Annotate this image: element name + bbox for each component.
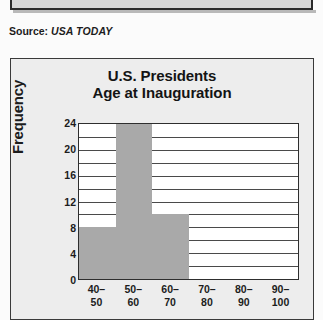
bar-cell xyxy=(225,124,262,279)
bar-cell xyxy=(116,124,153,279)
y-axis-tick-label: 12 xyxy=(64,197,76,207)
source-value: USA TODAY xyxy=(51,25,112,37)
y-axis-tick-label: 24 xyxy=(64,118,76,128)
bar-cell xyxy=(189,124,226,279)
y-axis-label: Frequency xyxy=(9,80,26,154)
bar-series xyxy=(79,124,298,279)
y-axis-tick-label: 16 xyxy=(64,170,76,180)
clipped-header-box-shadow xyxy=(13,10,316,13)
bar-cell xyxy=(152,124,189,279)
bar xyxy=(79,227,116,279)
plot-area xyxy=(78,123,299,280)
source-label: Source: xyxy=(9,25,48,37)
chart-title-line-2: Age at Inauguration xyxy=(11,84,313,101)
bar-cell xyxy=(262,124,299,279)
clipped-header-box-frame: Total Rebounds xyxy=(10,0,313,10)
x-axis-tick-label: 60–70 xyxy=(152,283,189,308)
chart-panel: U.S. Presidents Age at Inauguration Freq… xyxy=(10,58,314,320)
x-axis-tick-label: 40–50 xyxy=(78,283,115,308)
clipped-header-box: Total Rebounds xyxy=(10,0,313,10)
y-axis-ticks: 04812162024 xyxy=(47,123,76,280)
x-axis-ticks: 40–5050–6060–7070–8080–9090–100 xyxy=(78,283,299,308)
bar xyxy=(116,124,153,279)
x-axis-tick-label: 90–100 xyxy=(262,283,299,308)
chart-title: U.S. Presidents Age at Inauguration xyxy=(11,67,313,101)
y-axis-tick-label: 4 xyxy=(70,249,76,259)
chart-title-line-1: U.S. Presidents xyxy=(11,67,313,84)
y-axis-tick-label: 0 xyxy=(70,275,76,285)
x-axis-tick-label: 50–60 xyxy=(115,283,152,308)
x-axis-tick-label: 70–80 xyxy=(188,283,225,308)
bar xyxy=(152,214,189,279)
y-axis-tick-label: 20 xyxy=(64,144,76,154)
plot-frame xyxy=(78,123,299,280)
bar-cell xyxy=(79,124,116,279)
y-axis-tick-label: 8 xyxy=(70,223,76,233)
source-line: Source: USA TODAY xyxy=(9,25,112,38)
x-axis-tick-label: 80–90 xyxy=(225,283,262,308)
